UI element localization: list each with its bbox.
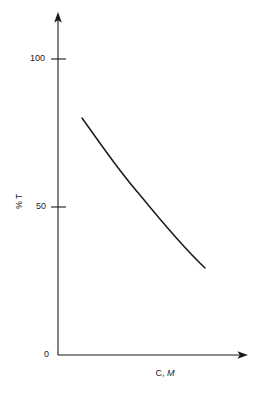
y-axis-label: % T bbox=[15, 177, 24, 225]
x-axis-label-variable: C, bbox=[155, 368, 164, 378]
transmittance-curve bbox=[82, 118, 205, 268]
y-axis-tick-label-50: 50 bbox=[36, 202, 46, 211]
y-axis-tick-label-100: 100 bbox=[30, 54, 45, 63]
y-axis-tick-label-0: 0 bbox=[44, 350, 49, 359]
chart-figure: 100 50 0 % T C, M bbox=[0, 0, 268, 398]
x-axis-label: C, M bbox=[130, 369, 200, 378]
x-axis-label-unit-symbol: M bbox=[167, 368, 175, 378]
